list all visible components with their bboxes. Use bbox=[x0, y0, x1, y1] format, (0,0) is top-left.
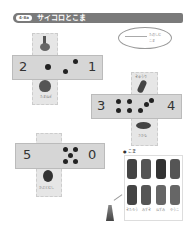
piece-caption: きたろう bbox=[125, 208, 139, 216]
die-3-caption: かぶとむし bbox=[39, 186, 54, 190]
pip bbox=[63, 147, 68, 152]
piece-figure bbox=[156, 185, 166, 205]
pip bbox=[68, 153, 73, 158]
piece-figure bbox=[141, 159, 151, 179]
die-3-right-number: 0 bbox=[88, 147, 96, 162]
piece-figure bbox=[170, 185, 180, 205]
die-1-right-number: 1 bbox=[88, 59, 96, 74]
pip bbox=[144, 102, 149, 107]
piece-caption: ゆうこ bbox=[168, 208, 182, 216]
pieces-label: ● こま bbox=[123, 148, 136, 154]
pip bbox=[73, 147, 78, 152]
section-title: サイコロとこま bbox=[37, 13, 86, 23]
die-net-1-horizontal: 2 1 bbox=[12, 55, 103, 80]
pip bbox=[116, 108, 121, 113]
onion-icon bbox=[39, 80, 51, 92]
pip bbox=[73, 59, 78, 64]
pip bbox=[73, 159, 78, 164]
pip bbox=[127, 99, 132, 104]
note-line2: こま bbox=[149, 39, 155, 43]
die-2-top-caption: きゅうり bbox=[135, 75, 147, 79]
pip bbox=[45, 64, 51, 70]
folded-piece-illustration bbox=[106, 205, 114, 221]
section-header: 4-8a サイコロとこま bbox=[13, 13, 183, 23]
die-net-3-horizontal: 5 0 bbox=[15, 143, 105, 169]
piece-figure bbox=[127, 185, 137, 205]
pip bbox=[63, 69, 68, 74]
piece-figure bbox=[170, 159, 180, 179]
die-net-2-horizontal: 3 4 bbox=[91, 94, 182, 119]
piece-caption: みずき bbox=[139, 208, 153, 216]
die-1-caption: たまねぎ bbox=[40, 95, 52, 99]
note-line1: たのしむ bbox=[149, 33, 161, 37]
pip bbox=[63, 159, 68, 164]
bottle-icon bbox=[40, 36, 50, 52]
piece-caption: ねずみ bbox=[154, 208, 168, 216]
pip bbox=[116, 99, 121, 104]
note-line bbox=[125, 36, 147, 37]
fish-icon bbox=[136, 122, 151, 129]
piece-figure bbox=[127, 159, 137, 179]
pip bbox=[127, 108, 132, 113]
die-2-left-number: 3 bbox=[97, 98, 105, 113]
die-2-bottom-caption: さかな bbox=[138, 134, 147, 138]
die-2-right-number: 4 bbox=[167, 98, 175, 113]
die-1-left-number: 2 bbox=[19, 59, 27, 74]
pip bbox=[138, 108, 143, 113]
pieces-sheet: きたろう みずき ねずみ ゆうこ bbox=[124, 155, 183, 221]
pip bbox=[149, 98, 154, 103]
piece-figure bbox=[141, 185, 151, 205]
arrow-icon bbox=[114, 194, 123, 201]
section-badge: 4-8a bbox=[16, 15, 32, 21]
piece-figure bbox=[156, 159, 166, 179]
beetle-icon bbox=[43, 170, 53, 182]
die-3-left-number: 5 bbox=[23, 147, 31, 162]
note-oval: たのしむ こま bbox=[118, 27, 172, 49]
